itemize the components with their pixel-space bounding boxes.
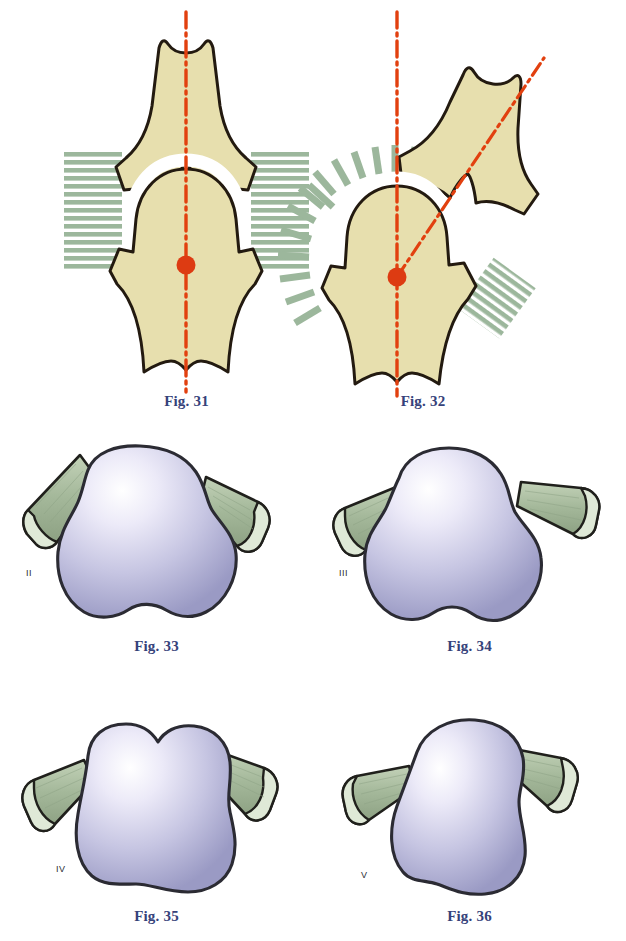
- roman-label-fig35: IV: [56, 864, 66, 874]
- caption-fig33: Fig. 33: [0, 638, 313, 655]
- fig34-illustration: [313, 430, 626, 645]
- figure-cell-fig35: IV Fig. 35: [0, 700, 313, 940]
- caption-fig35: Fig. 35: [0, 908, 313, 925]
- vertebral-body-fig36: [392, 720, 526, 895]
- caption-fig36: Fig. 36: [313, 908, 626, 925]
- hatch-left: [64, 152, 122, 270]
- vertebral-body-fig35: [76, 724, 235, 892]
- caption-fig32: Fig. 32: [278, 393, 568, 410]
- figure-cell-fig31: Fig. 31: [60, 0, 313, 420]
- fig31-illustration: [60, 0, 313, 400]
- fig32-illustration: [300, 0, 590, 400]
- roman-label-fig33: II: [26, 568, 32, 578]
- figure-cell-fig36: V Fig. 36: [313, 700, 626, 940]
- fig36-illustration: [313, 700, 626, 915]
- figure-cell-fig32: Fig. 32: [300, 0, 590, 420]
- fig33-illustration: [0, 430, 313, 645]
- fig35-illustration: [0, 700, 313, 915]
- figure-cell-fig34: III Fig. 34: [313, 430, 626, 670]
- figure-plate: Fig. 31: [0, 0, 626, 941]
- roman-label-fig36: V: [361, 870, 368, 880]
- caption-fig34: Fig. 34: [313, 638, 626, 655]
- joint-center-dot-fig32: [388, 268, 407, 287]
- figure-cell-fig33: II Fig. 33: [0, 430, 313, 670]
- caption-fig31: Fig. 31: [60, 393, 313, 410]
- joint-center-dot-fig31: [177, 256, 196, 275]
- vertebral-body-fig34: [365, 448, 542, 620]
- roman-label-fig34: III: [339, 568, 348, 578]
